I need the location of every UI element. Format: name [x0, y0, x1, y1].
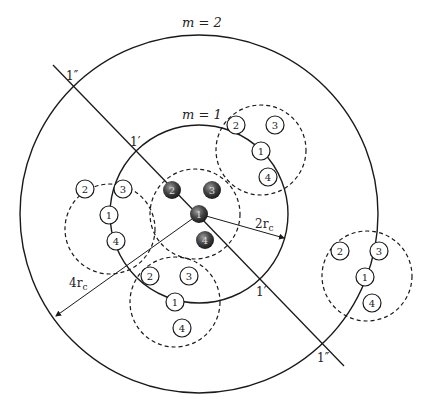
lower-node-2: 2: [141, 267, 159, 285]
left-node-1: 1: [100, 206, 118, 224]
fr-node-2: 2: [331, 242, 349, 260]
svg-text:2: 2: [82, 184, 88, 195]
lattice-diagram: 2 3 1 4 2 3 1 4 2 3 1 4: [0, 0, 426, 412]
sphere-3: 3: [203, 181, 221, 199]
lower-node-1: 1: [166, 293, 184, 311]
svg-text:1: 1: [196, 209, 202, 220]
label-m1: m = 1: [182, 107, 222, 122]
left-node-4: 4: [107, 232, 125, 250]
svg-text:4: 4: [369, 298, 375, 309]
svg-text:1: 1: [362, 272, 368, 283]
ur-node-3: 3: [266, 116, 284, 134]
svg-text:1: 1: [258, 146, 264, 157]
fr-node-3: 3: [370, 242, 388, 260]
svg-text:2: 2: [147, 271, 153, 282]
sphere-4: 4: [196, 231, 214, 249]
label-1dprime-top: 1″: [66, 69, 79, 83]
svg-text:4: 4: [113, 236, 119, 247]
label-2rc: 2rc: [255, 217, 273, 233]
svg-text:1: 1: [106, 210, 112, 221]
label-1dprime-bottom: 1″: [317, 351, 330, 365]
svg-text:4rc: 4rc: [69, 276, 87, 292]
left-node-2: 2: [76, 180, 94, 198]
svg-text:4: 4: [179, 323, 185, 334]
sphere-1: 1: [190, 205, 208, 223]
ur-node-2: 2: [227, 116, 245, 134]
cluster-left-boundary: [65, 184, 155, 274]
svg-text:1: 1: [172, 297, 178, 308]
svg-text:3: 3: [376, 246, 382, 257]
svg-text:2rc: 2rc: [255, 217, 273, 233]
label-m2: m = 2: [182, 15, 222, 30]
sphere-2: 2: [163, 181, 181, 199]
ur-node-4: 4: [259, 168, 277, 186]
fr-node-4: 4: [363, 294, 381, 312]
label-4rc: 4rc: [69, 276, 87, 292]
label-1prime-bottom: 1′: [256, 285, 267, 299]
lower-node-4: 4: [173, 319, 191, 337]
svg-text:4: 4: [265, 172, 271, 183]
svg-text:3: 3: [209, 185, 215, 196]
svg-text:2: 2: [169, 185, 175, 196]
ur-node-1: 1: [252, 142, 270, 160]
left-node-3: 3: [114, 180, 132, 198]
svg-text:3: 3: [186, 271, 192, 282]
svg-text:4: 4: [202, 235, 208, 246]
svg-text:2: 2: [233, 120, 239, 131]
lower-node-3: 3: [180, 267, 198, 285]
fr-node-1: 1: [356, 268, 374, 286]
svg-text:2: 2: [337, 246, 343, 257]
label-1prime-top: 1′: [130, 135, 141, 149]
svg-text:3: 3: [272, 120, 278, 131]
svg-text:3: 3: [120, 184, 126, 195]
